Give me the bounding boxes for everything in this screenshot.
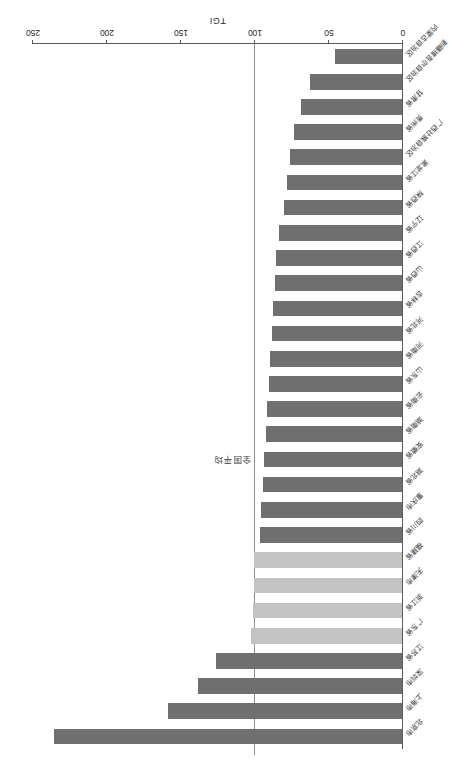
bar — [254, 552, 402, 568]
category-label: 上海市 — [403, 692, 425, 714]
bar-row — [33, 124, 402, 140]
category-axis-line — [402, 44, 403, 749]
category-label: 甘肃省 — [403, 88, 425, 110]
value-axis-line — [33, 43, 403, 44]
bar — [290, 150, 402, 166]
bar — [254, 578, 402, 594]
bar — [260, 527, 402, 543]
category-label: 河北省 — [403, 314, 425, 336]
bar-row — [33, 74, 402, 90]
bar — [251, 628, 402, 644]
bar-row — [33, 150, 402, 166]
bar — [253, 603, 402, 619]
category-label: 湖北省 — [403, 465, 425, 487]
axis-tick-label: 250 — [26, 28, 40, 38]
bar — [273, 301, 402, 317]
category-label: 陕西省 — [403, 188, 425, 210]
category-label: 重庆市 — [403, 490, 425, 512]
bar — [216, 653, 402, 669]
bar — [272, 326, 402, 342]
axis-tick — [180, 40, 181, 44]
axis-tick — [402, 40, 403, 44]
bar — [267, 401, 402, 417]
bar — [335, 49, 402, 65]
axis-tick-label: 150 — [174, 28, 188, 38]
bar — [301, 99, 402, 115]
bar-row — [33, 552, 402, 568]
category-label: 北京市 — [403, 717, 425, 739]
category-label: 云南省 — [403, 390, 425, 412]
bar — [266, 426, 402, 442]
bar-row — [33, 477, 402, 493]
category-label: 江西省 — [403, 239, 425, 261]
bar-row — [33, 703, 402, 719]
bar-row — [33, 628, 402, 644]
category-label: 四川省 — [403, 516, 425, 538]
bar — [168, 703, 402, 719]
bar-row — [33, 175, 402, 191]
bar-row — [33, 527, 402, 543]
category-label: 安徽省 — [403, 440, 425, 462]
bar-row — [33, 275, 402, 291]
category-label: 湖南省 — [403, 415, 425, 437]
bar — [270, 351, 402, 367]
bar — [279, 225, 402, 241]
bar-row — [33, 426, 402, 442]
category-label: 山东省 — [403, 365, 425, 387]
bar-row — [33, 578, 402, 594]
category-label: 广东省 — [403, 616, 425, 638]
bar-row — [33, 376, 402, 392]
axis-tick-label: 50 — [324, 28, 333, 38]
bar-row — [33, 678, 402, 694]
bar — [294, 124, 402, 140]
bar-row — [33, 401, 402, 417]
category-label: 福建省 — [403, 541, 425, 563]
category-label: 深圳市 — [403, 667, 425, 689]
bar — [264, 452, 402, 468]
category-label: 浙江省 — [403, 591, 425, 613]
bar-row — [33, 326, 402, 342]
axis-tick-label: 100 — [248, 28, 262, 38]
bar — [284, 200, 402, 216]
bar-row — [33, 99, 402, 115]
category-label: 贵州省 — [403, 113, 425, 135]
bar — [263, 477, 402, 493]
axis-tick — [32, 40, 33, 44]
bar-row — [33, 653, 402, 669]
bar — [261, 502, 402, 518]
category-label: 山西省 — [403, 264, 425, 286]
bar — [310, 74, 402, 90]
bar-row — [33, 49, 402, 65]
category-label: 辽宁省 — [403, 213, 425, 235]
value-axis-title: TGI — [0, 16, 435, 26]
category-label: 河南省 — [403, 339, 425, 361]
bar-row — [33, 729, 402, 745]
bar-row — [33, 225, 402, 241]
axis-tick — [106, 40, 107, 44]
bar — [287, 175, 402, 191]
bar — [276, 250, 402, 266]
axis-tick-label: 0 — [401, 28, 406, 38]
plot-area: 全国平均 北京市上海市深圳市江苏省广东省浙江省天津市福建省四川省重庆市湖北省安徽… — [33, 44, 403, 749]
bar-row — [33, 250, 402, 266]
bar-row — [33, 200, 402, 216]
axis-tick — [254, 40, 255, 44]
bar-row — [33, 603, 402, 619]
category-label: 江苏省 — [403, 641, 425, 663]
bar-row — [33, 301, 402, 317]
bar-row — [33, 452, 402, 468]
axis-tick-label: 200 — [100, 28, 114, 38]
bar-series — [33, 44, 402, 749]
bar-row — [33, 502, 402, 518]
bar — [54, 729, 402, 745]
bar-row — [33, 351, 402, 367]
bar — [198, 678, 402, 694]
axis-tick — [328, 40, 329, 44]
category-label: 黑龙江省 — [403, 158, 430, 185]
category-label: 吉林省 — [403, 289, 425, 311]
bar — [275, 275, 402, 291]
bar — [269, 376, 402, 392]
category-label: 天津市 — [403, 566, 425, 588]
